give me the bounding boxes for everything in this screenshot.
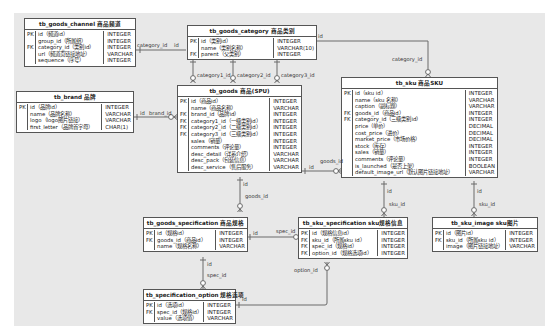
entity-goods-category[interactable]: tb_goods_category 商品类别 PK FK id（类别id） na… [187, 25, 317, 60]
rel-label: brand_id [149, 110, 172, 116]
rel-label: sku_id [479, 201, 495, 207]
rel-label: id [477, 188, 482, 194]
entity-title: tb_goods_category 商品类别 [188, 26, 316, 37]
field-name: category_id（类别id） [38, 44, 103, 51]
field-name: option_id（规格选项id） [312, 250, 377, 257]
field-name: id（类别id） [201, 38, 273, 45]
field-name: name（规格名称） [157, 243, 215, 250]
rel-label: id [242, 296, 247, 302]
field-name: comments（评论量） [191, 144, 269, 151]
field-name: id（商品id） [191, 98, 269, 105]
rel-label: category_id [392, 56, 422, 62]
entity-brand[interactable]: tb_brand 品牌 PK id（品牌id） name（品牌名称） logo（… [16, 91, 134, 133]
key-column: PK FK [144, 302, 155, 322]
field-name: default_image_url（默认图片链接地址） [355, 169, 465, 176]
field-name: spec_id（规格id） [312, 243, 377, 250]
key-column: PK [17, 104, 28, 130]
key-column: PK FK [433, 230, 444, 250]
field-type-column: INTEGER VARCHAR VARCHAR CHAR(1) [102, 104, 133, 130]
key-column: PK FK [188, 38, 199, 58]
entity-title: tb_goods_specification 商品规格 [144, 218, 247, 229]
entity-title: tb_sku_specification sku规格信息 [299, 218, 407, 229]
field-name: first_letter（品牌首字母） [30, 124, 101, 131]
rel-label: spec_id [276, 228, 295, 234]
rel-label: category_id [137, 42, 167, 48]
rel-label: category2_id [237, 72, 271, 78]
field-name-column: id（品牌id） name（品牌名称） logo（logo图片链接） first… [28, 104, 102, 130]
rel-label: id [243, 181, 248, 187]
field-name: sequence（序号） [38, 57, 103, 64]
entity-title: tb_brand 品牌 [17, 92, 133, 103]
field-name: value（选项值） [157, 315, 203, 322]
field-name-column: id（图片id） sku_id（所属sku id） image（图片链接地址） [444, 230, 506, 250]
entity-goods-channel[interactable]: tb_goods_channel 商品频道 PK FK id（频道id） gro… [24, 18, 136, 67]
entity-sku[interactable]: tb_sku 商品SKU PK FK FK id（sku id） name（sk… [341, 77, 498, 178]
field-type-column: INTEGER VARCHAR(10) INTEGER [274, 38, 316, 58]
entity-title: tb_sku_image sku图片 [433, 218, 537, 229]
field-name: desc_service（售后服务） [191, 164, 269, 171]
entity-specification-option[interactable]: tb_specification_option 规格选项 PK FK id（选项… [143, 289, 236, 324]
field-type-column: INTEGER INTEGER VARCHAR [216, 230, 247, 250]
field-name: id（选项id） [157, 302, 203, 309]
rel-label: goods_id [320, 158, 343, 164]
rel-label: id [174, 42, 179, 48]
field-type-column: INTEGER VARCHAR VARCHAR INTEGER INTEGER … [466, 90, 497, 176]
field-type-column: INTEGER INTEGER VARCHAR [204, 302, 235, 322]
field-name: id（规格信息id） [312, 230, 377, 237]
field-name: id（sku id） [355, 90, 465, 97]
rel-label: option_id [294, 267, 318, 273]
entity-goods[interactable]: tb_goods 商品(SPU) PK FK FK FK FK id（商品id）… [177, 85, 302, 173]
field-name: parent（父类别） [201, 51, 273, 58]
key-column: PK FK [25, 31, 36, 64]
rel-label: category3_id [281, 72, 315, 78]
entity-title: tb_goods_channel 商品频道 [25, 19, 135, 30]
entity-title: tb_sku 商品SKU [342, 78, 497, 89]
field-name: id（品牌id） [30, 104, 101, 111]
field-name: comments（评论量） [355, 156, 465, 163]
field-type-column: INTEGER INTEGER INTEGER INTEGER [378, 230, 407, 256]
rel-label: id [140, 110, 145, 116]
entity-sku-specification[interactable]: tb_sku_specification sku规格信息 PK FK FK FK… [298, 217, 408, 259]
field-name-column: id（选项id） spec_id（规格id） value（选项值） [155, 302, 204, 322]
field-name: id（规格id） [157, 230, 215, 237]
key-column: PK FK FK [342, 90, 353, 176]
field-name-column: id（商品id） name（商品名称） brand_id（品牌id） categ… [189, 98, 270, 171]
field-name: logo（logo图片链接） [30, 117, 101, 124]
field-name-column: id（规格信息id） sku_id（所属sku id） spec_id（规格id… [310, 230, 378, 256]
field-name: caption（副标题） [355, 103, 465, 110]
rel-label: goods_id [245, 193, 268, 199]
field-type-column: INTEGER INTEGER INTEGER VARCHAR INTEGER [104, 31, 135, 64]
entity-title: tb_goods 商品(SPU) [178, 86, 301, 97]
entity-title: tb_specification_option 规格选项 [144, 290, 235, 301]
key-column: PK FK [144, 230, 155, 250]
field-name-column: id（规格id） goods_id（商品id） name（规格名称） [155, 230, 216, 250]
rel-label: id [387, 188, 392, 194]
field-name: id（图片id） [446, 230, 505, 237]
entity-sku-image[interactable]: tb_sku_image sku图片 PK FK id（图片id） sku_id… [432, 217, 538, 252]
field-type-column: INTEGER VARCHAR INTEGER INTEGER INTEGER … [270, 98, 301, 171]
rel-label: id [207, 261, 212, 267]
field-name: market_price（市场价格） [355, 136, 465, 143]
rel-label: id [253, 230, 258, 236]
field-type-column: INTEGER INTEGER VARCHAR [506, 230, 537, 250]
key-column: PK FK FK FK FK [178, 98, 189, 171]
field-name: brand_id（品牌id） [191, 111, 269, 118]
rel-label: id [309, 164, 314, 170]
rel-label: category1_id [197, 72, 231, 78]
field-name-column: id（sku id） name（sku 名称） caption（副标题） goo… [353, 90, 466, 176]
field-name: price（单价） [355, 123, 465, 130]
field-name: image（图片链接地址） [446, 243, 505, 250]
rel-label: id [318, 33, 323, 39]
key-column: PK FK FK FK [299, 230, 310, 256]
entity-goods-specification[interactable]: tb_goods_specification 商品规格 PK FK id（规格i… [143, 217, 248, 252]
field-name-column: id（频道id） group_id（所属组） category_id（类别id）… [36, 31, 104, 64]
field-name: id（频道id） [38, 31, 103, 38]
rel-label: spec_id [207, 272, 226, 278]
field-name-column: id（类别id） name（类别名称） parent（父类别） [199, 38, 274, 58]
field-name: category3_id（三级类别id） [191, 131, 269, 138]
rel-label: sku_id [389, 201, 405, 207]
